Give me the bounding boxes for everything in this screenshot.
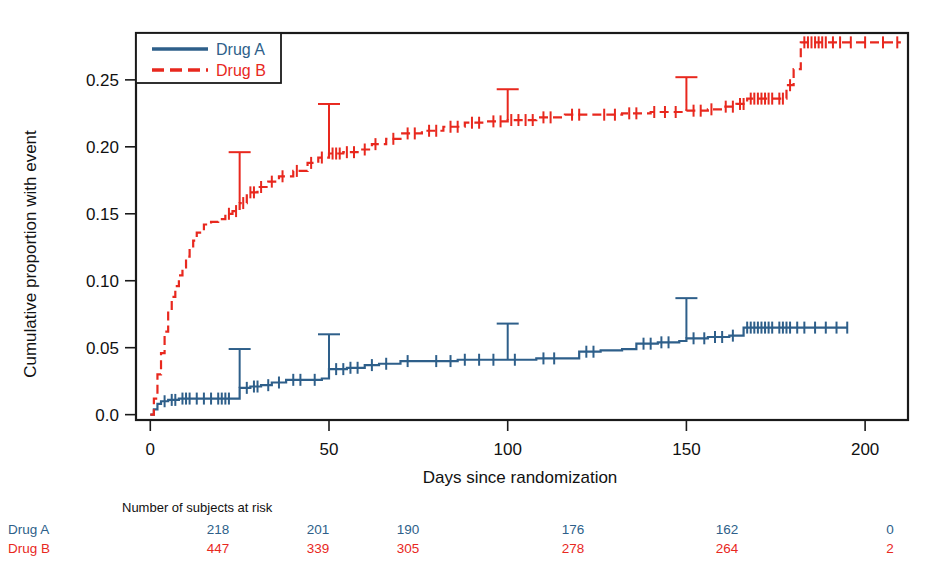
risk-value: 447 — [207, 541, 230, 556]
y-tick-label: 0.10 — [86, 272, 119, 291]
y-tick-label: 0.15 — [86, 205, 119, 224]
risk-value: 201 — [307, 522, 330, 537]
x-tick-label: 200 — [851, 440, 879, 459]
km-survival-figure: 0.00.050.100.150.200.25 050100150200 Dru… — [0, 0, 936, 581]
y-axis-ticks: 0.00.050.100.150.200.25 — [86, 71, 136, 425]
risk-value: 176 — [562, 522, 585, 537]
risk-value: 2 — [886, 541, 894, 556]
data-series-layer — [150, 42, 901, 414]
x-tick-label: 150 — [672, 440, 700, 459]
y-axis-title: Cumulative proportion with event — [21, 130, 40, 378]
risk-table: Number of subjects at riskDrug A21820119… — [8, 500, 894, 556]
plot-border — [136, 33, 908, 420]
y-tick-label: 0.0 — [95, 406, 119, 425]
x-axis-ticks: 050100150200 — [146, 420, 880, 459]
y-tick-label: 0.20 — [86, 138, 119, 157]
risk-row-label-drug-b: Drug B — [8, 541, 50, 556]
risk-value: 278 — [562, 541, 585, 556]
risk-value: 305 — [397, 541, 420, 556]
x-axis-title: Days since randomization — [423, 468, 618, 487]
legend[interactable]: Drug ADrug B — [136, 33, 281, 83]
legend-label-drug-a[interactable]: Drug A — [216, 41, 265, 58]
risk-value: 339 — [307, 541, 330, 556]
risk-value: 0 — [886, 522, 894, 537]
plot-frame — [136, 33, 908, 420]
risk-table-header: Number of subjects at risk — [122, 500, 273, 515]
legend-label-drug-b[interactable]: Drug B — [216, 62, 266, 79]
risk-value: 264 — [716, 541, 739, 556]
y-tick-label: 0.25 — [86, 71, 119, 90]
y-tick-label: 0.05 — [86, 339, 119, 358]
risk-value: 162 — [716, 522, 739, 537]
risk-value: 190 — [397, 522, 420, 537]
risk-value: 218 — [207, 522, 230, 537]
series-line-drug-a — [150, 328, 847, 415]
x-tick-label: 0 — [146, 440, 155, 459]
chart-canvas: 0.00.050.100.150.200.25 050100150200 Dru… — [0, 0, 936, 581]
x-tick-label: 50 — [320, 440, 339, 459]
error-bars-layer — [229, 77, 698, 388]
risk-row-label-drug-a: Drug A — [8, 522, 49, 537]
x-tick-label: 100 — [494, 440, 522, 459]
